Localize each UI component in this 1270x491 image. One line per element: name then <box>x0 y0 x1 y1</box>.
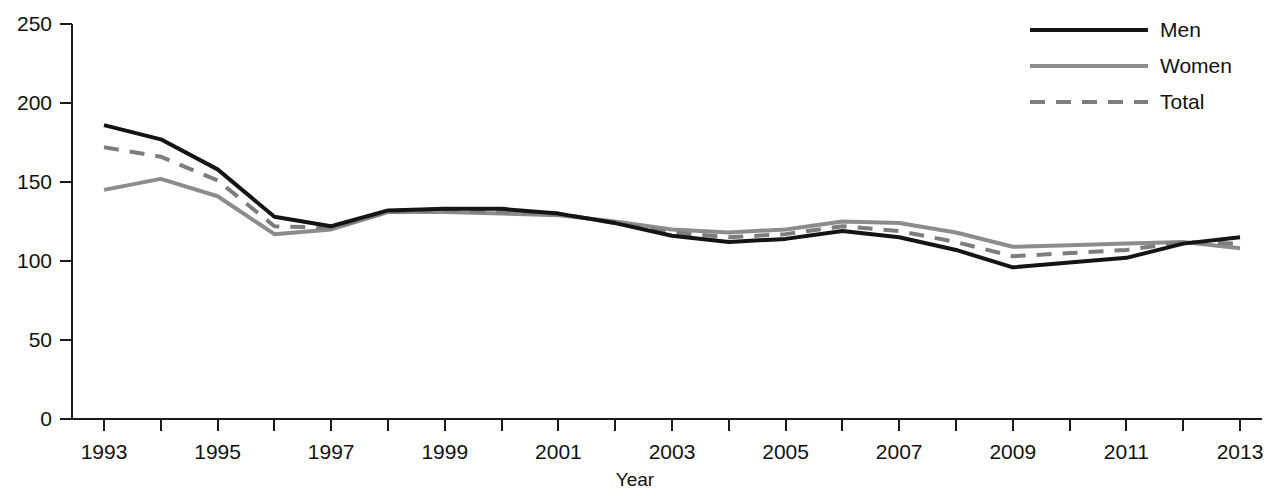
chart-legend: MenWomenTotal <box>1030 18 1232 113</box>
x-axis-tick-label: 2001 <box>535 440 582 463</box>
y-axis: 050100150200250 <box>17 12 72 430</box>
x-axis: 1993199519971999200120032005200720092011… <box>72 419 1263 463</box>
legend-label-women: Women <box>1160 54 1232 77</box>
x-axis-tick-label: 2003 <box>649 440 696 463</box>
x-axis-tick-label: 1995 <box>194 440 241 463</box>
y-axis-tick-label: 0 <box>40 407 52 430</box>
x-axis-tick-label: 2009 <box>989 440 1036 463</box>
y-axis-tick-label: 250 <box>17 12 52 35</box>
data-series-group <box>104 125 1240 267</box>
chart-canvas: 050100150200250 199319951997199920012003… <box>0 0 1270 491</box>
x-axis-tick-label: 2005 <box>762 440 809 463</box>
y-axis-tick-label: 200 <box>17 91 52 114</box>
x-axis-tick-label: 1999 <box>421 440 468 463</box>
x-axis-title: Year <box>616 469 655 490</box>
series-line-total <box>104 147 1240 256</box>
y-axis-tick-label: 150 <box>17 170 52 193</box>
x-axis-tick-label: 1993 <box>81 440 128 463</box>
legend-label-men: Men <box>1160 18 1201 41</box>
x-axis-tick-label: 1997 <box>308 440 355 463</box>
x-axis-tick-label: 2007 <box>876 440 923 463</box>
x-axis-tick-label: 2011 <box>1104 440 1149 463</box>
x-axis-tick-label: 2013 <box>1217 440 1264 463</box>
y-axis-tick-label: 100 <box>17 249 52 272</box>
line-chart: 050100150200250 199319951997199920012003… <box>0 0 1270 491</box>
y-axis-tick-label: 50 <box>29 328 52 351</box>
legend-label-total: Total <box>1160 90 1204 113</box>
series-line-women <box>104 179 1240 249</box>
